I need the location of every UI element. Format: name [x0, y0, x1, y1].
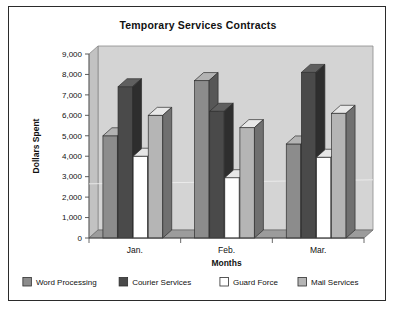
bar-front-face [103, 136, 118, 238]
y-axis-tick-label: 2,000 [62, 193, 83, 202]
plot-left-wall [89, 46, 98, 238]
legend-label: Word Processing [36, 278, 97, 287]
bar [240, 120, 264, 238]
x-axis-category-label: Jan. [127, 245, 143, 255]
legend-swatch [23, 278, 32, 287]
bar-side-face [346, 105, 355, 238]
legend-swatch [220, 278, 229, 287]
y-axis-tick-label: 4,000 [62, 152, 83, 161]
legend-swatch [119, 278, 128, 287]
y-axis-tick-label: 9,000 [62, 50, 83, 59]
legend-label: Courier Services [132, 278, 191, 287]
bar-front-face [316, 157, 331, 238]
legend-swatch [298, 278, 307, 287]
y-axis-tick-label: 5,000 [62, 132, 83, 141]
bar-front-face [148, 115, 163, 238]
y-axis-tick-label: 1,000 [62, 213, 83, 222]
x-axis-category-label: Feb. [218, 245, 235, 255]
chart-frame: Temporary Services Contracts 9,0008,0007… [8, 6, 386, 301]
bar-front-face [286, 144, 301, 238]
bar [332, 105, 356, 238]
bar [148, 107, 172, 238]
legend-item[interactable]: Courier Services [119, 278, 191, 287]
x-axis-category-label: Mar. [310, 245, 327, 255]
y-axis: 9,0008,0007,0006,0005,0004,0003,0002,000… [62, 50, 89, 243]
y-axis-tick-label: 8,000 [62, 70, 83, 79]
bar-front-face [195, 81, 210, 238]
bar-front-face [240, 128, 255, 238]
legend-item[interactable]: Word Processing [23, 278, 97, 287]
legend-label: Mail Services [311, 278, 359, 287]
chart-legend: Word ProcessingCourier ServicesGuard For… [23, 278, 359, 287]
bar-front-face [301, 72, 316, 238]
bar-front-face [118, 87, 132, 238]
y-axis-title: Dollars Spent [31, 118, 41, 173]
bar-front-face [225, 178, 240, 238]
legend-label: Guard Force [233, 278, 278, 287]
x-axis-title: Months [211, 258, 241, 268]
bar-front-face [332, 113, 347, 238]
bar-side-face [254, 120, 263, 238]
bar-front-face [133, 156, 148, 238]
chart-canvas: 9,0008,0007,0006,0005,0004,0003,0002,000… [9, 7, 387, 302]
y-axis-tick-label: 3,000 [62, 172, 83, 181]
bar-side-face [163, 107, 172, 238]
y-axis-tick-label: 6,000 [62, 111, 83, 120]
chart-plot-area: 9,0008,0007,0006,0005,0004,0003,0002,000… [9, 7, 387, 302]
y-axis-tick-label: 7,000 [62, 91, 83, 100]
x-axis: Jan.Feb.Mar.Months [89, 238, 364, 268]
legend-item[interactable]: Guard Force [220, 278, 278, 287]
bar-front-face [210, 111, 225, 238]
y-axis-tick-label: 0 [78, 234, 83, 243]
legend-item[interactable]: Mail Services [298, 278, 359, 287]
